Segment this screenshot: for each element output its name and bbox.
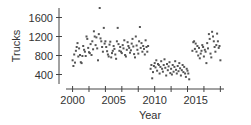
data-point (114, 54, 116, 56)
data-point (166, 63, 168, 65)
data-point (167, 69, 169, 71)
data-point (94, 36, 96, 38)
data-point (136, 45, 138, 47)
data-point (103, 27, 105, 29)
data-point (140, 47, 142, 49)
data-point (143, 48, 145, 50)
data-point (100, 37, 102, 39)
data-point (126, 49, 128, 51)
data-point (173, 71, 175, 73)
data-point (73, 54, 75, 56)
data-point (127, 41, 129, 43)
data-point (216, 33, 218, 35)
data-point (123, 47, 125, 49)
data-point (195, 43, 197, 45)
data-point (119, 46, 121, 48)
data-point (86, 38, 88, 40)
y-axis-ticks: 40080012001600 (29, 12, 62, 81)
data-point (215, 44, 217, 46)
data-point (93, 30, 95, 32)
data-point (81, 55, 83, 57)
data-point (87, 47, 89, 49)
y-axis-title: Trucks (10, 29, 22, 62)
data-point (112, 50, 114, 52)
data-point (131, 43, 133, 45)
data-point (188, 78, 190, 80)
data-point (186, 68, 188, 70)
data-point (113, 48, 115, 50)
data-point (135, 36, 137, 38)
data-point (159, 66, 161, 68)
data-point (78, 47, 80, 49)
y-tick-label: 1600 (29, 12, 53, 24)
data-point (160, 60, 162, 62)
data-point (127, 45, 129, 47)
data-point (200, 53, 202, 55)
data-point (118, 43, 120, 45)
data-point (90, 43, 92, 45)
data-point (182, 71, 184, 73)
data-point (173, 66, 175, 68)
data-point (213, 40, 215, 42)
data-point (207, 47, 209, 49)
data-point (214, 46, 216, 48)
data-point (141, 51, 143, 53)
data-point (194, 48, 196, 50)
data-point (164, 58, 166, 60)
data-point (165, 75, 167, 77)
data-point (129, 52, 131, 54)
data-point (76, 46, 78, 48)
data-point (141, 42, 143, 44)
data-point (218, 47, 220, 49)
x-tick-label: 2015 (183, 94, 207, 106)
data-point (104, 40, 106, 42)
data-point (100, 40, 102, 42)
x-tick-label: 2000 (60, 94, 84, 106)
data-point (205, 51, 207, 53)
data-point (105, 46, 107, 48)
data-point (217, 40, 219, 42)
data-point (191, 50, 193, 52)
data-point (212, 36, 214, 38)
x-tick-label: 2005 (101, 94, 125, 106)
data-point (72, 59, 74, 61)
data-point (74, 62, 76, 64)
data-point (104, 43, 106, 45)
data-point (151, 77, 153, 79)
data-point (177, 65, 179, 67)
data-point (181, 69, 183, 71)
data-point (209, 38, 211, 40)
data-point (145, 39, 147, 41)
data-point (155, 59, 157, 61)
data-point (110, 56, 112, 58)
x-axis-title: Year (139, 109, 162, 121)
data-point (156, 70, 158, 72)
data-point (134, 56, 136, 58)
data-point (214, 51, 216, 53)
data-point (154, 62, 156, 64)
data-point (82, 45, 84, 47)
data-point (75, 50, 77, 52)
data-point (178, 70, 180, 72)
data-point (161, 68, 163, 70)
data-point (196, 45, 198, 47)
data-point (83, 49, 85, 51)
data-point (130, 49, 132, 51)
data-point (132, 46, 134, 48)
data-point (113, 45, 115, 47)
data-point (162, 71, 164, 73)
x-tick-label: 2010 (142, 94, 166, 106)
data-point (133, 53, 135, 55)
data-point (201, 44, 203, 46)
data-point (170, 68, 172, 70)
y-tick-label: 800 (35, 50, 53, 62)
data-point (72, 65, 74, 67)
data-point (128, 47, 130, 49)
data-point (91, 40, 93, 42)
data-point (137, 53, 139, 55)
data-point (197, 55, 199, 57)
data-point (91, 54, 93, 56)
data-point (210, 53, 212, 55)
scatter-chart: 40080012001600 2000200520102015 Trucks Y… (0, 0, 251, 125)
data-point (155, 66, 157, 68)
